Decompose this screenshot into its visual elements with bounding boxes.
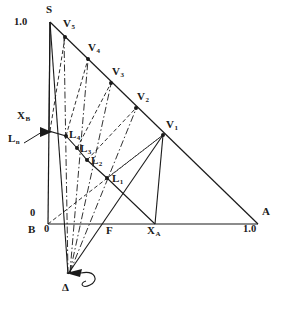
- base-label-F: F: [106, 225, 113, 236]
- marker-L3: [75, 146, 79, 150]
- point-label-V3: V3: [112, 66, 123, 77]
- feed-point-marker: [24, 127, 52, 143]
- diagram-canvas: [0, 0, 288, 310]
- base-label-XA: XA: [147, 225, 160, 236]
- feed-label-XB: XB: [17, 110, 30, 121]
- v1-base-line: [155, 135, 163, 224]
- reflux-label-Ln: Ln: [8, 133, 19, 144]
- vertex-label-A: A: [262, 206, 270, 217]
- marker-V1: [161, 133, 165, 137]
- marker-V2: [134, 106, 138, 110]
- tieline-L2-V2: [87, 108, 136, 160]
- hypotenuse-SA: [50, 22, 258, 224]
- point-label-V2: V2: [137, 91, 148, 102]
- point-label-L1: L1: [112, 173, 123, 184]
- axis-tick-left-bottom: 0: [30, 208, 35, 219]
- point-label-L2: L2: [91, 155, 102, 166]
- tieline-L4-V4: [66, 59, 88, 136]
- equilibrium-tie-lines: [48, 37, 163, 224]
- marker-V4: [86, 57, 90, 61]
- line-delta-to-V1: [68, 135, 163, 274]
- point-label-V4: V4: [88, 42, 99, 53]
- point-label-L4: L4: [69, 129, 80, 140]
- tieline-origin-to-V1: [48, 135, 163, 224]
- vertex-label-B: B: [28, 224, 35, 235]
- marker-L2: [85, 158, 89, 162]
- tieline-L3-V3: [77, 83, 111, 148]
- point-label-V5: V5: [63, 18, 74, 29]
- delta-arrowhead: [66, 269, 82, 277]
- marker-L1: [105, 176, 109, 180]
- vertex-label-S: S: [46, 4, 52, 15]
- marker-L4: [64, 134, 68, 138]
- marker-V5: [63, 35, 67, 39]
- point-label-V1: V1: [166, 119, 177, 130]
- point-label-L3: L3: [80, 143, 91, 154]
- axis-tick-base-left: 0: [44, 224, 49, 235]
- marker-V3: [109, 81, 113, 85]
- axis-tick-left-top: 1.0: [14, 17, 27, 28]
- triangle-outline: [48, 22, 258, 224]
- line-S-to-delta: [50, 22, 68, 274]
- ln-pointer-line: [24, 132, 42, 143]
- tieline-delta-L2-V3: [70, 84, 111, 272]
- line-V1-to-base: [155, 135, 163, 224]
- ternary-phase-diagram: S 1.0 V5 V4 V3 V2 V1 XB Ln L4 L3 L2 L1 0: [0, 0, 288, 310]
- delta-curl-leader: [81, 272, 95, 286]
- delta-pole-label: Δ: [62, 282, 69, 293]
- axis-tick-base-right: 1.0: [243, 224, 256, 235]
